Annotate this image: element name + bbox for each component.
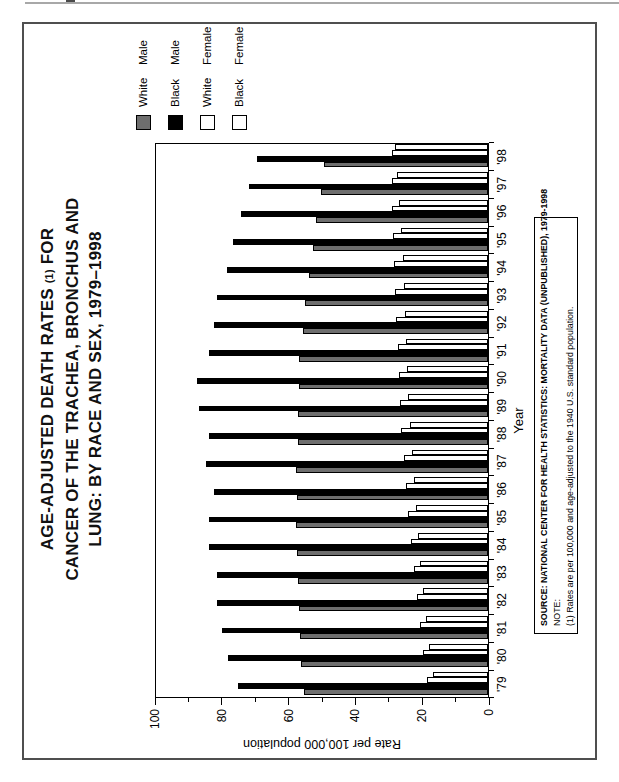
bar-80-white-male	[301, 661, 488, 667]
x-tick	[489, 309, 494, 310]
legend-swatch	[168, 115, 183, 130]
x-tick	[489, 254, 494, 255]
x-axis-title: Year	[511, 313, 526, 528]
bar-83-black-female	[420, 561, 488, 567]
bar-85-white-male	[296, 522, 488, 528]
bar-82-white-female	[417, 594, 488, 600]
bar-92-white-male	[303, 328, 488, 334]
y-minor-tick	[322, 698, 323, 702]
bar-86-white-female	[406, 483, 488, 489]
bar-79-white-female	[427, 677, 488, 683]
bar-87-white-male	[296, 467, 488, 473]
bar-81-black-male	[222, 628, 488, 634]
bar-84-white-female	[411, 539, 488, 545]
bar-83-white-male	[298, 578, 488, 584]
x-tick-label: '96	[496, 198, 508, 226]
x-tick	[489, 559, 494, 560]
bar-94-black-female	[403, 255, 489, 261]
bar-82-white-male	[299, 606, 488, 612]
x-tick-label: '95	[496, 226, 508, 254]
bar-96-black-female	[399, 200, 488, 206]
x-tick-label: '80	[496, 642, 508, 670]
bar-95-white-male	[313, 245, 488, 251]
y-major-tick	[489, 698, 490, 705]
page-top-rule	[25, 2, 619, 4]
x-tick-label: '85	[496, 504, 508, 532]
bar-80-black-male	[228, 655, 488, 661]
x-tick-label: '94	[496, 254, 508, 282]
bar-84-black-male	[209, 544, 488, 550]
y-axis-title: Rate per 100,000 population	[222, 737, 422, 751]
bar-95-black-female	[401, 228, 488, 234]
bar-88-white-female	[401, 428, 488, 434]
legend-label-sex: Female	[201, 27, 213, 65]
bar-93-white-female	[395, 289, 488, 295]
chart-title-line: AGE-ADJUSTED DEATH RATES (1) FOR	[36, 20, 61, 758]
y-tick-label: 100	[149, 709, 161, 755]
bar-93-white-male	[305, 300, 488, 306]
legend-label-race: Black	[233, 79, 245, 107]
source-note-box: SOURCE: NATIONAL CENTER FOR HEALTH STATI…	[534, 217, 578, 634]
bar-95-black-male	[233, 239, 489, 245]
x-tick-label: '89	[496, 393, 508, 421]
bar-98-white-female	[392, 150, 488, 156]
bar-89-white-male	[298, 411, 488, 417]
y-major-tick	[155, 698, 156, 705]
x-tick	[489, 476, 494, 477]
x-tick-label: '91	[496, 337, 508, 365]
bar-88-black-female	[410, 422, 488, 428]
y-major-tick	[422, 698, 423, 705]
x-tick	[489, 281, 494, 282]
bar-86-black-male	[214, 489, 488, 495]
x-tick-label: '90	[496, 365, 508, 393]
bar-79-white-male	[304, 689, 488, 695]
bar-82-black-male	[217, 600, 488, 606]
x-tick-label: '92	[496, 309, 508, 337]
bar-98-black-male	[257, 156, 488, 162]
bar-95-white-female	[393, 233, 488, 239]
x-tick	[489, 587, 494, 588]
bar-85-white-female	[408, 511, 488, 517]
x-tick-label: '87	[496, 448, 508, 476]
y-minor-tick	[255, 698, 256, 702]
x-tick	[489, 670, 494, 671]
bar-84-black-female	[418, 533, 488, 539]
legend-label-race: White	[201, 78, 213, 107]
y-minor-tick	[455, 698, 456, 702]
bar-79-black-male	[238, 683, 489, 689]
x-tick	[489, 448, 494, 449]
bar-87-white-female	[404, 455, 489, 461]
bar-97-white-female	[392, 178, 488, 184]
x-tick	[489, 392, 494, 393]
bar-86-black-female	[414, 477, 488, 483]
chart-title-line: LUNG: BY RACE AND SEX, 1979–1998	[84, 20, 107, 758]
x-tick-label: '97	[496, 171, 508, 199]
bar-98-black-female	[395, 144, 488, 150]
x-tick-label: '79	[496, 670, 508, 698]
plot-area	[155, 143, 489, 698]
bar-83-black-male	[217, 572, 488, 578]
bar-79-black-female	[433, 672, 488, 678]
x-tick-label: '86	[496, 476, 508, 504]
x-tick	[489, 226, 494, 227]
page: AGE-ADJUSTED DEATH RATES (1) FORCANCER O…	[0, 0, 619, 782]
x-tick-label: '81	[496, 615, 508, 643]
x-tick	[489, 337, 494, 338]
x-tick	[489, 503, 494, 504]
page-header-fragment	[66, 0, 75, 2]
y-minor-tick	[188, 698, 189, 702]
bar-81-white-female	[420, 622, 488, 628]
source-line: SOURCE: NATIONAL CENTER FOR HEALTH STATI…	[538, 218, 551, 626]
legend-swatch	[200, 115, 215, 130]
x-tick-label: '88	[496, 420, 508, 448]
legend-label-race: White	[137, 78, 149, 107]
bar-94-white-male	[309, 273, 488, 279]
bar-80-black-female	[429, 644, 488, 650]
bar-89-black-male	[199, 406, 488, 412]
bar-88-white-male	[298, 439, 488, 445]
chart-title: AGE-ADJUSTED DEATH RATES (1) FORCANCER O…	[36, 20, 107, 758]
bar-82-black-female	[423, 588, 488, 594]
bar-90-black-male	[197, 378, 488, 384]
x-tick-label: '93	[496, 282, 508, 310]
x-tick-label: '98	[496, 143, 508, 171]
